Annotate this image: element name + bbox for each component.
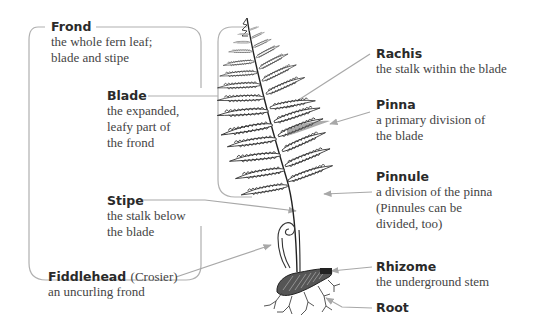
label-rhizome: Rhizome the underground stem <box>376 259 489 290</box>
desc-pinna-line1: a primary division of <box>376 112 485 128</box>
fiddlehead-heading: Fiddlehead (Crosier) <box>48 269 178 284</box>
term-pinna: Pinna <box>376 97 485 112</box>
desc-pinnule-line1: a division of the pinna <box>376 184 492 200</box>
term-blade: Blade <box>107 88 179 103</box>
label-frond: Frond the whole fern leaf; blade and sti… <box>51 19 152 66</box>
label-root: Root <box>376 300 409 315</box>
desc-rachis-line1: the stalk within the blade <box>376 61 507 77</box>
desc-stipe-line1: the stalk below <box>107 208 186 224</box>
desc-blade-line1: the expanded, <box>107 103 179 119</box>
pinnule-leader-line <box>324 192 372 194</box>
term-pinnule: Pinnule <box>376 169 492 184</box>
term-rachis: Rachis <box>376 46 507 61</box>
fern-parts-diagram: Frond the whole fern leaf; blade and sti… <box>0 0 538 333</box>
desc-pinna-line2: the blade <box>376 128 485 144</box>
label-blade: Blade the expanded, leafy part of the fr… <box>107 88 179 151</box>
label-pinnule: Pinnule a division of the pinna (Pinnule… <box>376 169 492 232</box>
label-fiddlehead: Fiddlehead (Crosier) an uncurling frond <box>48 269 178 300</box>
label-rachis: Rachis the stalk within the blade <box>376 46 507 77</box>
term-frond: Frond <box>51 19 152 34</box>
term-root: Root <box>376 300 409 315</box>
fiddlehead-alt-name: (Crosier) <box>131 269 178 284</box>
pinna-leader-line <box>330 112 370 124</box>
fern-illustration <box>217 18 333 272</box>
term-rhizome: Rhizome <box>376 259 489 274</box>
desc-blade-line3: the frond <box>107 135 179 151</box>
label-pinna: Pinna a primary division of the blade <box>376 97 485 144</box>
desc-frond-line2: blade and stipe <box>51 50 152 66</box>
rhizome-shape <box>277 268 332 295</box>
term-stipe: Stipe <box>107 193 186 208</box>
desc-frond-line1: the whole fern leaf; <box>51 34 152 50</box>
term-fiddlehead: Fiddlehead <box>48 269 126 284</box>
desc-stipe-line2: the blade <box>107 224 186 240</box>
rhizome-leader-line <box>331 267 372 271</box>
fiddlehead-leader-line <box>176 245 271 277</box>
desc-rhizome-line1: the underground stem <box>376 274 489 290</box>
desc-pinnule-line2: (Pinnules can be <box>376 200 492 216</box>
desc-pinnule-line3: divided, too) <box>376 216 492 232</box>
root-leader-line <box>326 298 372 308</box>
fiddlehead-spiral <box>278 223 295 268</box>
label-stipe: Stipe the stalk below the blade <box>107 193 186 240</box>
desc-fiddlehead-line1: an uncurling frond <box>48 284 178 300</box>
desc-blade-line2: leafy part of <box>107 119 179 135</box>
